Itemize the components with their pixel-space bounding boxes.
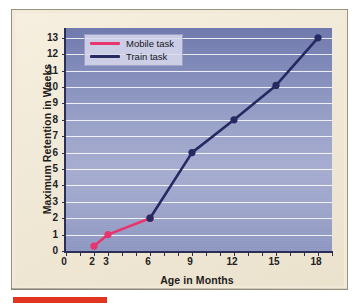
y-tick-label: 9 <box>36 98 58 108</box>
x-tick-mark <box>262 251 263 256</box>
x-tick-label: 0 <box>49 257 79 267</box>
y-tick-label: 7 <box>36 131 58 141</box>
data-point <box>104 231 111 238</box>
x-tick-mark <box>304 251 305 256</box>
x-tick-label: 18 <box>301 257 331 267</box>
data-point <box>230 116 237 123</box>
legend-swatch-mobile-task <box>90 42 120 45</box>
x-tick-label: 12 <box>217 257 247 267</box>
legend-label-mobile-task: Mobile task <box>126 39 174 49</box>
y-tick-label: 3 <box>36 197 58 207</box>
data-point <box>90 242 97 249</box>
page-edge-shadow <box>11 288 348 290</box>
legend-label-train-task: Train task <box>126 52 167 62</box>
x-axis-label: Age in Months <box>64 274 330 286</box>
y-tick-label: 8 <box>36 115 58 125</box>
y-tick-label: 11 <box>36 66 58 76</box>
y-tick-label: 12 <box>36 49 58 59</box>
figure-inner-panel: Maximum Retention in Weeks 0123456789101… <box>15 13 344 286</box>
data-point <box>272 82 279 89</box>
x-tick-label: 15 <box>259 257 289 267</box>
x-tick-mark <box>136 251 137 256</box>
x-tick-mark <box>122 251 123 256</box>
chart-legend: Mobile task Train task <box>84 34 183 66</box>
y-tick-label: 6 <box>36 148 58 158</box>
x-tick-mark <box>164 251 165 256</box>
x-tick-mark <box>290 251 291 256</box>
y-tick-label: 5 <box>36 164 58 174</box>
x-tick-mark <box>206 251 207 256</box>
x-tick-mark <box>248 251 249 256</box>
data-point <box>314 34 321 41</box>
y-tick-label: 10 <box>36 82 58 92</box>
y-tick-label: 2 <box>36 213 58 223</box>
y-tick-label: 1 <box>36 230 58 240</box>
red-caption-bar <box>13 297 107 303</box>
plot-area: Mobile task Train task <box>64 28 332 253</box>
y-tick-label: 4 <box>36 180 58 190</box>
x-tick-label: 6 <box>133 257 163 267</box>
data-point <box>146 215 153 222</box>
series-line-mobile-task <box>94 218 150 246</box>
x-tick-label: 3 <box>91 257 121 267</box>
x-tick-mark <box>332 251 333 256</box>
figure-card: Maximum Retention in Weeks 0123456789101… <box>11 9 348 290</box>
x-tick-mark <box>80 251 81 256</box>
y-tick-label: 0 <box>36 246 58 256</box>
x-tick-mark <box>178 251 179 256</box>
legend-item-mobile-task: Mobile task <box>90 39 174 49</box>
y-tick-label: 13 <box>36 33 58 43</box>
legend-item-train-task: Train task <box>90 52 174 62</box>
x-tick-label: 9 <box>175 257 205 267</box>
legend-swatch-train-task <box>90 55 120 58</box>
x-tick-mark <box>220 251 221 256</box>
data-point <box>188 149 195 156</box>
